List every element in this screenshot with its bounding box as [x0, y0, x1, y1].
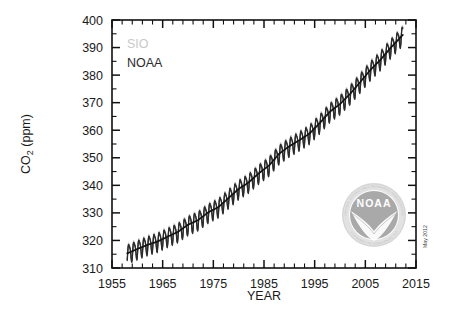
x-tick-label-1995: 1995	[301, 277, 329, 291]
date-stamp: May 2012	[422, 225, 428, 248]
chart-canvas: 1955196519751985199520052015 31032033034…	[0, 0, 452, 315]
noaa-logo: NOAA NATIONAL OCEANIC AND ATMOSPHERIC AD…	[342, 183, 406, 247]
x-tick-label-2005: 2005	[351, 277, 379, 291]
y-axis-title-main: CO	[19, 155, 33, 174]
y-tick-label-380: 380	[82, 69, 103, 83]
logo-wordmark: NOAA	[357, 197, 392, 209]
y-tick-label-350: 350	[82, 151, 103, 165]
x-tick-label-1965: 1965	[149, 277, 177, 291]
y-axis-title: CO2 (ppm)	[19, 114, 35, 174]
legend-item-noaa: NOAA	[127, 56, 163, 70]
y-tick-label-320: 320	[82, 234, 103, 248]
y-axis-title-unit: (ppm)	[19, 114, 33, 150]
y-tick-label-390: 390	[82, 41, 103, 55]
y-tick-label-360: 360	[82, 124, 103, 138]
x-axis-title: YEAR	[247, 289, 281, 303]
y-tick-label-340: 340	[82, 179, 103, 193]
y-tick-label-400: 400	[82, 14, 103, 28]
y-tick-label-310: 310	[82, 262, 103, 276]
y-tick-label-370: 370	[82, 96, 103, 110]
y-tick-label-330: 330	[82, 206, 103, 220]
date-stamp-text: May 2012	[422, 225, 428, 248]
svg-text:CO2 (ppm): CO2 (ppm)	[19, 114, 35, 174]
x-tick-label-1975: 1975	[199, 277, 227, 291]
x-tick-label-2015: 2015	[402, 277, 430, 291]
co2-chart-figure: 1955196519751985199520052015 31032033034…	[0, 0, 452, 315]
x-tick-label-1955: 1955	[98, 277, 126, 291]
legend-item-sio: SIO	[127, 37, 149, 51]
